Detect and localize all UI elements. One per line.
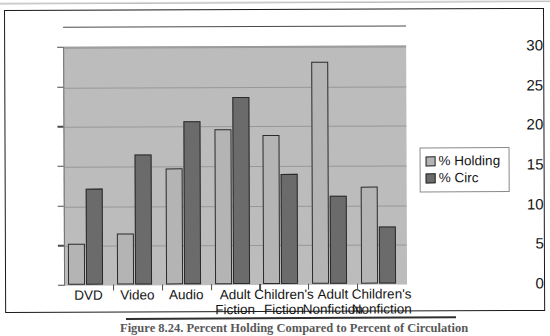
x-axis-line <box>63 25 406 28</box>
bar-chart: 051015202530 DVDVideoAudioAdultFictionCh… <box>15 25 544 319</box>
legend-item-holding: % Holding <box>426 152 501 169</box>
gridline <box>64 86 406 88</box>
x-axis-tick-mark <box>162 284 163 290</box>
y-axis-tick-mark <box>57 86 63 87</box>
y-axis-tick-label: 15 <box>506 155 544 172</box>
y-axis-tick-label: 10 <box>506 195 544 212</box>
bar-circ <box>183 122 201 285</box>
y-axis-tick-label: 25 <box>505 76 543 93</box>
bar-holding <box>311 62 329 284</box>
y-axis-tick-mark <box>58 166 64 167</box>
bar-holding <box>263 135 281 284</box>
caption-divider <box>126 316 456 320</box>
y-axis-tick-label: 30 <box>505 36 543 53</box>
bar-holding <box>117 234 134 285</box>
x-axis-tick-mark <box>357 284 358 290</box>
bar-circ <box>232 97 250 284</box>
bar-circ <box>86 189 103 285</box>
chart-legend: % Holding % Circ <box>420 147 510 192</box>
y-axis-tick-mark <box>57 126 63 127</box>
legend-label-holding: % Holding <box>439 152 501 169</box>
y-axis-tick-label: 0 <box>506 274 544 291</box>
bar-holding <box>214 129 232 285</box>
x-axis-tick-mark <box>259 284 260 290</box>
x-axis-tick-mark <box>211 284 212 290</box>
legend-swatch-holding-icon <box>426 156 436 166</box>
x-axis-tick-label-line: Nonfiction <box>349 302 414 317</box>
x-axis-tick-label: Children'sNonfiction <box>349 287 414 316</box>
bar-circ <box>330 196 347 284</box>
y-axis-tick-mark <box>57 47 63 48</box>
bar-circ <box>379 226 396 283</box>
figure-frame: 051015202530 DVDVideoAudioAdultFictionCh… <box>4 8 545 313</box>
bar-holding <box>165 169 182 285</box>
bar-circ <box>281 174 298 284</box>
y-axis-tick-mark <box>58 285 64 286</box>
gridline <box>64 46 406 48</box>
bar-holding <box>68 243 85 284</box>
legend-item-circ: % Circ <box>426 169 501 186</box>
y-axis-tick-mark <box>58 205 64 206</box>
bar-circ <box>134 154 151 284</box>
scan-edge-rule <box>0 0 550 5</box>
figure-caption: Figure 8.24. Percent Holding Compared to… <box>120 321 540 336</box>
legend-label-circ: % Circ <box>439 169 479 186</box>
x-axis-tick-mark <box>308 284 309 290</box>
legend-swatch-circ-icon <box>426 173 436 183</box>
x-axis-tick-mark <box>113 285 114 291</box>
y-axis-tick-label: 5 <box>506 235 544 252</box>
y-axis-tick-mark <box>58 245 64 246</box>
bar-holding <box>361 187 378 284</box>
y-axis-tick-label: 20 <box>505 116 543 133</box>
x-axis-tick-label-line: Children's <box>349 287 414 302</box>
